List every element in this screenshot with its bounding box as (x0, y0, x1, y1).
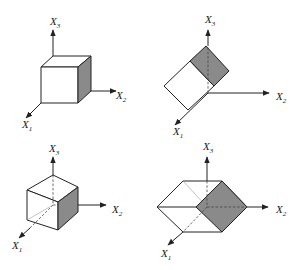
axis-x1 (168, 232, 183, 245)
label-x3: X3 (204, 13, 216, 28)
cube-front-face (41, 67, 78, 103)
label-x1: X1 (172, 125, 183, 140)
label-x1: X1 (160, 247, 171, 262)
label-x2: X2 (275, 90, 287, 105)
label-x2: X2 (275, 203, 287, 218)
label-x2: X2 (111, 203, 123, 218)
axis-x1 (19, 228, 30, 238)
panel-bottom-right: X3 X2 X1 (157, 140, 287, 262)
label-x3: X3 (49, 15, 61, 30)
label-x3: X3 (202, 140, 214, 155)
cube-rotation-diagram: X3 X2 X1 X3 X2 X1 X3 (0, 0, 298, 270)
label-x2: X2 (115, 89, 127, 104)
axis-x1 (26, 103, 41, 118)
label-x1: X1 (21, 118, 32, 133)
label-x3: X3 (48, 142, 60, 157)
label-x1: X1 (11, 239, 22, 254)
panel-bottom-left: X3 X2 X1 (11, 142, 123, 254)
panel-top-right: X3 X2 X1 (164, 13, 287, 140)
panel-top-left: X3 X2 X1 (21, 15, 127, 133)
